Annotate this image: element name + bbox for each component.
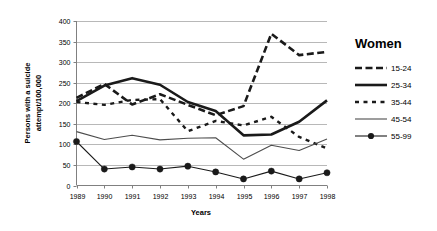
legend-title: Women [355, 36, 402, 51]
data-point-marker [296, 176, 302, 182]
y-axis-title-line1: Persons with a suicide [23, 63, 32, 144]
x-tick-label: 1992 [153, 193, 169, 200]
data-point-marker [73, 138, 79, 144]
data-point-marker [129, 164, 135, 170]
data-point-marker [157, 166, 163, 172]
data-point-marker [101, 166, 107, 172]
legend-marker-55-99 [368, 133, 374, 139]
legend-label-25-34: 25-34 [391, 81, 412, 90]
x-tick-label: 1990 [97, 193, 113, 200]
x-tick-label: 1993 [181, 193, 197, 200]
data-point-marker [240, 176, 246, 182]
legend-label-15-24: 15-24 [391, 64, 412, 73]
y-tick-label: 150 [59, 121, 71, 128]
x-tick-label: 1995 [237, 193, 253, 200]
y-tick-label: 100 [59, 141, 71, 148]
x-tick-label: 1998 [320, 193, 336, 200]
legend-label-45-54: 45-54 [391, 115, 412, 124]
data-point-marker [268, 168, 274, 174]
y-tick-label: 200 [59, 100, 71, 107]
y-tick-label: 300 [59, 59, 71, 66]
data-point-marker [185, 163, 191, 169]
y-tick-label: 0 [67, 183, 71, 190]
x-tick-label: 1996 [264, 193, 280, 200]
y-tick-label: 50 [63, 162, 71, 169]
suicide-attempt-line-chart: 050100150200250300350400 198919901991199… [0, 0, 437, 231]
legend-label-35-44: 35-44 [391, 98, 412, 107]
y-tick-label: 250 [59, 80, 71, 87]
y-axis-title-line2: attempt/100,000 [34, 75, 43, 131]
x-axis-title: Years [191, 208, 211, 217]
x-tick-label: 1991 [125, 193, 141, 200]
x-tick-label: 1989 [70, 193, 86, 200]
y-tick-label: 400 [59, 18, 71, 25]
chart-container: 050100150200250300350400 198919901991199… [0, 0, 437, 231]
data-point-marker [213, 169, 219, 175]
data-point-marker [324, 170, 330, 176]
x-tick-label: 1994 [209, 193, 225, 200]
legend-label-55-99: 55-99 [391, 132, 412, 141]
y-tick-label: 350 [59, 39, 71, 46]
x-tick-label: 1997 [292, 193, 308, 200]
